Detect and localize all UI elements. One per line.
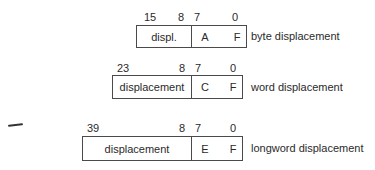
bit-label-mid-low: 7: [195, 62, 201, 74]
bit-label-low: 0: [230, 62, 236, 74]
bit-label-low: 0: [232, 11, 238, 23]
bit-label-high: 23: [117, 62, 129, 74]
reg-field: F: [225, 137, 241, 160]
displacement-field: displacement: [113, 76, 191, 98]
bit-label-mid-low: 7: [195, 122, 201, 134]
bit-label-mid-high: 8: [178, 11, 184, 23]
displacement-field: displ.: [137, 26, 191, 47]
field-divider: [191, 76, 192, 98]
opcode-field: A: [197, 26, 213, 47]
reg-field: F: [229, 26, 245, 47]
bit-label-mid-low: 7: [194, 11, 200, 23]
field-divider: [191, 137, 192, 160]
displacement-field: displacement: [83, 137, 191, 160]
opcode-field: C: [197, 76, 213, 98]
row-label: longword displacement: [251, 142, 364, 154]
bit-label-low: 0: [230, 122, 236, 134]
instruction-box: displacement E F: [82, 136, 243, 161]
opcode-field: E: [197, 137, 213, 160]
reg-field: F: [225, 76, 241, 98]
row-label: byte displacement: [251, 30, 340, 42]
bit-label-high: 15: [144, 11, 156, 23]
instruction-box: displ. A F: [136, 25, 247, 48]
bit-label-mid-high: 8: [179, 62, 185, 74]
stray-mark: [8, 123, 23, 127]
bit-label-high: 39: [87, 122, 99, 134]
field-divider: [191, 26, 192, 47]
instruction-box: displacement C F: [112, 75, 243, 99]
bit-label-mid-high: 8: [179, 122, 185, 134]
row-label: word displacement: [251, 81, 343, 93]
